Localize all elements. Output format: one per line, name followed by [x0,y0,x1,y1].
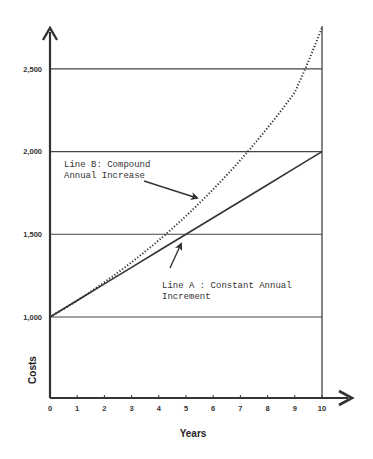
x-axis [50,391,352,405]
x-axis-title: Years [180,428,207,439]
annotation-line-a-subtitle: Increment [162,292,211,302]
cost-chart: 1,0001,5002,0002,500 012345678910 Line B… [0,0,373,459]
x-tick-label: 2 [102,404,106,413]
x-tick-label: 3 [130,404,134,413]
x-tick-label: 1 [75,404,79,413]
y-tick-label: 2,500 [23,65,42,74]
annotation-line-b-subtitle: Annual Increase [64,171,145,181]
x-tick-label: 4 [157,404,162,413]
x-tick-label: 6 [211,404,215,413]
annotation-line-b-title: Line B: Compound [64,160,150,170]
y-tick-label: 2,000 [23,147,42,156]
x-tick-label: 7 [238,404,242,413]
gridlines [50,69,322,317]
annotation-line-a-title: Line A : Constant Annual [162,281,292,291]
x-tick-label: 5 [184,404,188,413]
x-tick-labels: 012345678910 [48,404,326,413]
annotation-a-arrow-icon [170,244,181,268]
y-axis-title: Costs [27,356,38,384]
x-tick-label: 0 [48,404,52,413]
y-axis [43,28,57,398]
y-tick-labels: 1,0001,5002,0002,500 [23,65,42,322]
x-tick-label: 8 [266,404,270,413]
y-tick-label: 1,500 [23,230,42,239]
x-tick-label: 9 [293,404,297,413]
annotation-b-arrow-icon [144,181,197,198]
x-tick-label: 10 [318,404,326,413]
y-tick-label: 1,000 [23,313,42,322]
